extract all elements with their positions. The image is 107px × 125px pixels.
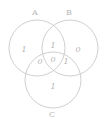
set-label-c: C [49, 111, 55, 119]
region-value-a-and-b-and-c: 0 [48, 56, 58, 64]
set-label-b: B [66, 9, 72, 17]
region-value-a-only: 1 [19, 46, 29, 54]
set-label-a: A [32, 9, 38, 17]
region-value-a-and-c: 0 [35, 58, 45, 66]
region-value-c-only: 1 [48, 83, 58, 91]
region-value-b-and-c: 1 [61, 58, 71, 66]
region-value-a-and-b: 1 [48, 42, 58, 50]
venn-diagram: A B C 1 0 1 0 0 1 1 [0, 0, 107, 125]
region-value-b-only: 0 [73, 46, 83, 54]
